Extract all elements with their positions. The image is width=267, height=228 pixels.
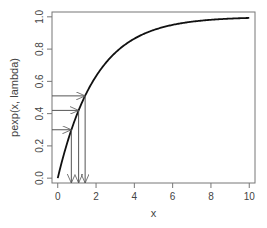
x-tick-label: 8 [208,191,214,202]
y-tick-label: 0.2 [34,139,45,153]
cdf-curve [58,18,250,178]
x-axis-label: x [151,207,157,219]
y-tick-label: 1.0 [34,9,45,23]
y-tick-label: 0.8 [34,42,45,56]
y-tick-label: 0.6 [34,74,45,88]
x-tick-label: 10 [244,191,256,202]
plot-frame [52,12,255,183]
y-tick-label: 0.4 [34,106,45,120]
x-tick-label: 0 [55,191,61,202]
x-tick-label: 2 [93,191,99,202]
x-tick-label: 4 [132,191,138,202]
x-tick-label: 6 [170,191,176,202]
y-tick-label: 0.0 [34,171,45,185]
exponential-cdf-plot: 02468100.00.20.40.60.81.0xpexp(x, lambda… [0,0,267,228]
y-axis-label: pexp(x, lambda) [8,58,20,137]
